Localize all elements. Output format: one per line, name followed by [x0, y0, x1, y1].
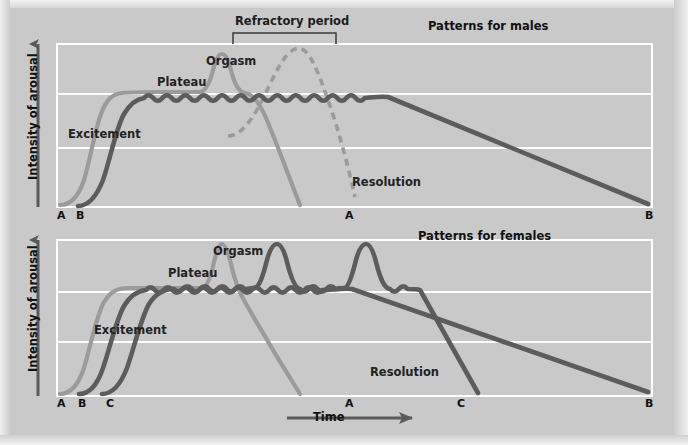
refractory-period-label: Refractory period — [235, 16, 349, 28]
panel-title-males: Patterns for males — [428, 21, 548, 33]
y-axis-label-females: Intensity of arousal — [26, 245, 40, 372]
curve-males-pattern-c-dashed — [228, 48, 355, 197]
orgasm-label-females: Orgasm — [213, 246, 263, 258]
resolution-label-females: Resolution — [370, 367, 439, 379]
y-axis-label-males: Intensity of arousal — [26, 53, 40, 180]
x-tick-males-b2: B — [645, 210, 653, 221]
curve-females-pattern-b — [79, 287, 648, 394]
orgasm-label-males: Orgasm — [206, 56, 256, 68]
x-axis-label-time: Time — [313, 412, 345, 424]
plateau-label-males: Plateau — [157, 77, 206, 89]
figure-container: Intensity of arousal Patterns for males … — [0, 0, 688, 445]
sexual-response-cycle-chart — [0, 0, 688, 445]
x-tick-males-b1: B — [76, 210, 84, 221]
excitement-label-females: Excitement — [94, 325, 167, 337]
excitement-label-males: Excitement — [68, 129, 141, 141]
x-tick-females-a1: A — [57, 398, 66, 409]
x-tick-males-a1: A — [57, 210, 66, 221]
x-tick-females-b2: B — [645, 398, 653, 409]
panel-title-females: Patterns for females — [418, 231, 551, 243]
plateau-label-females: Plateau — [168, 268, 217, 280]
x-tick-females-c1: C — [106, 398, 114, 409]
resolution-label-males: Resolution — [352, 177, 421, 189]
panel-males — [38, 33, 652, 207]
x-tick-females-c2: C — [457, 398, 465, 409]
x-tick-males-a2: A — [345, 210, 354, 221]
curve-males-pattern-b — [78, 95, 648, 206]
refractory-bracket-males — [233, 33, 336, 44]
x-tick-females-a2: A — [345, 398, 354, 409]
x-tick-females-b1: B — [78, 398, 86, 409]
